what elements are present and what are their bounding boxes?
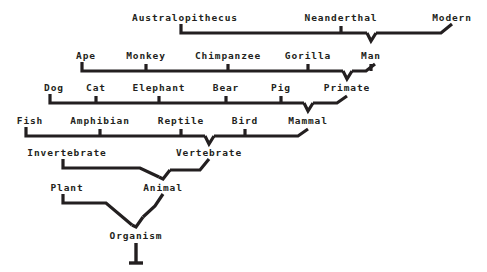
vnotch-man xyxy=(367,33,376,41)
connector-animal-group xyxy=(63,159,159,177)
node-mammal[interactable]: Mammal xyxy=(288,115,328,126)
node-fish[interactable]: Fish xyxy=(17,115,43,126)
node-vertebrate[interactable]: Vertebrate xyxy=(176,147,242,158)
vnotch-primate xyxy=(343,71,352,79)
connector-vertebrate-group xyxy=(26,127,205,136)
connector-mammal-group xyxy=(50,94,304,103)
vnotch-organism xyxy=(132,217,143,227)
arm-modern xyxy=(376,24,452,33)
taxonomy-tree-diagram: Australopithecus Neanderthal Modern Ape … xyxy=(0,0,487,272)
node-dog[interactable]: Dog xyxy=(44,82,64,93)
vnotch-mammal xyxy=(304,103,313,111)
node-animal[interactable]: Animal xyxy=(143,182,183,193)
node-primate[interactable]: Primate xyxy=(324,82,370,93)
node-modern[interactable]: Modern xyxy=(432,12,472,23)
node-ape[interactable]: Ape xyxy=(76,50,96,61)
tree-connectors xyxy=(0,0,487,272)
node-chimpanzee[interactable]: Chimpanzee xyxy=(195,50,261,61)
vnotch-animal xyxy=(159,170,170,179)
vnotch-vertebrate xyxy=(205,136,214,144)
node-monkey[interactable]: Monkey xyxy=(126,50,166,61)
arm-animal-right xyxy=(170,159,209,170)
arm-mammal-right xyxy=(313,96,347,103)
connector-man-group xyxy=(181,24,367,33)
node-cat[interactable]: Cat xyxy=(86,82,106,93)
arm-organism-right xyxy=(143,194,163,217)
node-bear[interactable]: Bear xyxy=(213,82,239,93)
node-pig[interactable]: Pig xyxy=(271,82,291,93)
node-man[interactable]: Man xyxy=(361,50,381,61)
arm-vertebrate-right xyxy=(214,129,308,136)
node-organism[interactable]: Organism xyxy=(110,230,163,241)
connector-organism-group xyxy=(63,194,132,225)
node-plant[interactable]: Plant xyxy=(50,182,83,193)
connector-primate-group xyxy=(82,62,343,71)
node-australopithecus[interactable]: Australopithecus xyxy=(132,12,238,23)
node-neanderthal[interactable]: Neanderthal xyxy=(305,12,378,23)
node-bird[interactable]: Bird xyxy=(232,115,258,126)
node-reptile[interactable]: Reptile xyxy=(158,115,204,126)
node-elephant[interactable]: Elephant xyxy=(133,82,186,93)
node-gorilla[interactable]: Gorilla xyxy=(285,50,331,61)
node-invertebrate[interactable]: Invertebrate xyxy=(27,147,106,158)
node-amphibian[interactable]: Amphibian xyxy=(70,115,130,126)
